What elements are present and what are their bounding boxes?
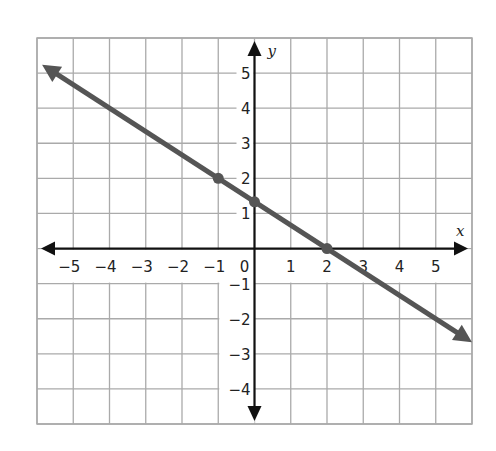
x-tick-label: −3 (131, 258, 153, 276)
tick-labels: −5−4−3−2−1012345−4−3−2−112345xy (58, 42, 465, 399)
x-axis-label: x (456, 222, 465, 240)
x-tick-label: −1 (203, 258, 225, 276)
y-tick-label: −1 (228, 276, 250, 294)
plotted-line (42, 65, 472, 342)
y-tick-label: −3 (228, 346, 250, 364)
x-tick-label: −4 (94, 258, 116, 276)
data-point (322, 243, 333, 254)
y-axis-label: y (267, 42, 277, 60)
y-tick-label: −2 (228, 311, 250, 329)
y-tick-label: 5 (241, 65, 251, 83)
y-axis-top-arrow-icon (248, 41, 262, 56)
x-tick-label: 1 (286, 258, 296, 276)
x-tick-label: 5 (431, 258, 441, 276)
x-tick-label: −5 (58, 258, 80, 276)
data-point (249, 196, 260, 207)
data-point (213, 173, 224, 184)
x-tick-label: 0 (240, 258, 250, 276)
x-tick-label: 4 (395, 258, 405, 276)
y-tick-label: 4 (241, 100, 251, 118)
y-tick-label: −4 (228, 381, 250, 399)
x-tick-label: 2 (322, 258, 332, 276)
coordinate-plane: −5−4−3−2−1012345−4−3−2−112345xy (0, 0, 496, 451)
y-tick-label: 2 (241, 170, 251, 188)
y-tick-label: 3 (241, 135, 251, 153)
y-tick-label: 1 (241, 205, 251, 223)
x-tick-label: −2 (167, 258, 189, 276)
axes (41, 41, 468, 421)
